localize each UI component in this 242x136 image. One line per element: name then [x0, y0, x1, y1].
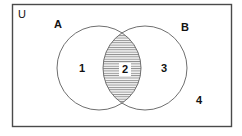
set-b-label: B — [181, 22, 189, 33]
universe-label: U — [18, 9, 26, 20]
set-a-label: A — [54, 19, 62, 30]
region-label-3: 3 — [161, 63, 167, 74]
region-label-1: 1 — [79, 63, 85, 74]
region-label-2: 2 — [119, 63, 131, 76]
venn-diagram-figure: U A B 1 2 3 4 — [0, 0, 242, 136]
region-label-4: 4 — [196, 95, 202, 106]
